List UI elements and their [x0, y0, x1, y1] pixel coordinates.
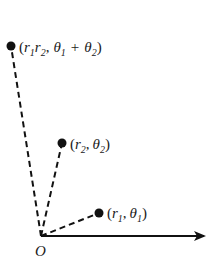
ray-to-p1: [41, 213, 99, 236]
label-p2: (r2,θ2): [70, 136, 110, 155]
point-p1: [95, 209, 104, 218]
label-p3: (r1r2,θ1+θ2): [19, 39, 102, 58]
point-p2: [58, 139, 67, 148]
origin-label: O: [35, 243, 46, 259]
polar-product-diagram: O (r1,θ1) (r2,θ2) (r1r2,θ1+θ2): [0, 0, 221, 275]
point-p3: [7, 42, 16, 51]
label-p1: (r1,θ1): [107, 205, 147, 224]
ray-to-p3: [11, 46, 41, 236]
ray-to-p2: [41, 143, 62, 236]
